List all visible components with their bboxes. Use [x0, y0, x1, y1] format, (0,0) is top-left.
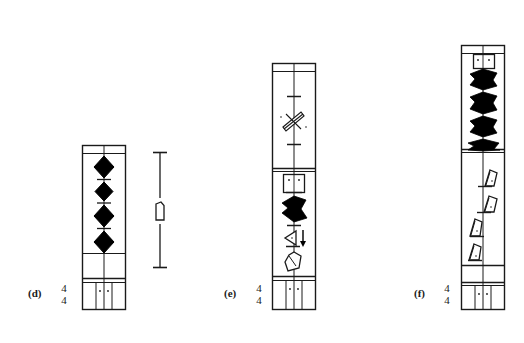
panel-label-e: (e): [224, 287, 236, 299]
symbol-outlined-arrowhead-e: [285, 230, 306, 247]
panel-count-f-bottom: 4: [441, 294, 453, 306]
panel-e: (e) 4 4: [200, 0, 360, 343]
panel-label-f: (f): [414, 287, 425, 299]
scale-bar: [130, 0, 200, 343]
symbol-dotted-box-e: [284, 175, 305, 193]
panel-count-f-top: 4: [441, 282, 453, 294]
panel-count-e-top: 4: [253, 282, 265, 294]
symbol-filled-arrowhead-group-e: [282, 196, 307, 226]
symbol-filled-diamond-group-d: [94, 156, 114, 253]
panel-counts-e: 4 4: [253, 282, 265, 306]
symbol-filled-arrowhead-group-f: [468, 69, 500, 151]
panel-count-d-bottom: 4: [58, 294, 70, 306]
panel-f-drawing: [390, 0, 524, 343]
panel-counts-d: 4 4: [58, 282, 70, 306]
symbol-dotted-box-f: [474, 55, 495, 69]
figure-root: (d) 4 4: [0, 0, 524, 343]
panel-count-e-bottom: 4: [253, 294, 265, 306]
scale-bar-drawing: [130, 0, 200, 343]
scale-bar-flake-icon: [156, 202, 164, 220]
panel-f: (f) 4 4: [390, 0, 524, 343]
symbol-outlined-flake-e: [285, 252, 301, 271]
panel-count-d-top: 4: [58, 282, 70, 294]
panel-counts-f: 4 4: [441, 282, 453, 306]
panel-label-d: (d): [28, 287, 41, 299]
